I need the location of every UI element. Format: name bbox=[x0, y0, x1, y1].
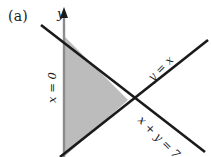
shaded-region bbox=[64, 36, 128, 157]
figure-graphic bbox=[0, 0, 211, 157]
part-label: (a) bbox=[8, 8, 28, 24]
figure-container: (a) y x = 0 y = x x + y = 7 bbox=[0, 0, 211, 157]
label-x-equals-0: x = 0 bbox=[45, 72, 59, 103]
y-axis-label: y bbox=[57, 6, 64, 21]
